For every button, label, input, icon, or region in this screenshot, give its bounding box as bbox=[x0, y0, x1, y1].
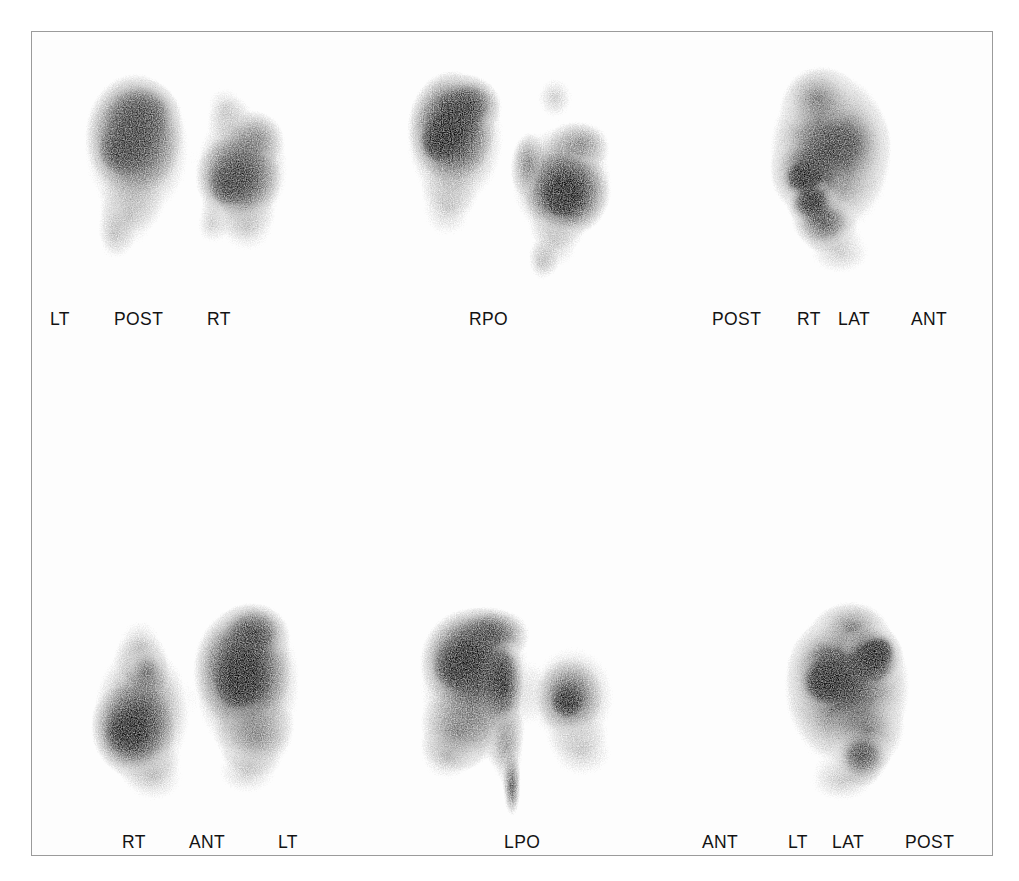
scan-image-right-lateral bbox=[712, 38, 972, 308]
scan-panel-lpo bbox=[387, 572, 667, 842]
label-rt-right-lateral: RT bbox=[797, 306, 821, 332]
label-ant-right-lateral: ANT bbox=[911, 306, 947, 332]
orientation-labels-top-row: LT POST RT RPO POST RT LAT ANT bbox=[32, 306, 992, 332]
scan-image-rpo bbox=[377, 38, 657, 308]
scan-row-top bbox=[32, 38, 992, 338]
image-frame: LT POST RT RPO POST RT LAT ANT bbox=[31, 31, 993, 856]
scan-row-bottom bbox=[32, 572, 992, 856]
label-lt-left-lateral: LT bbox=[788, 829, 808, 855]
label-rt-posterior: RT bbox=[207, 306, 231, 332]
label-rpo: RPO bbox=[469, 306, 508, 332]
scan-panel-posterior bbox=[42, 38, 352, 308]
scan-panel-right-lateral bbox=[712, 38, 972, 308]
label-ant-anterior: ANT bbox=[189, 829, 225, 855]
lung-scintigraphy-figure: LT POST RT RPO POST RT LAT ANT bbox=[0, 0, 1019, 881]
label-lat-left-lateral: LAT bbox=[832, 829, 864, 855]
scan-panel-anterior bbox=[42, 572, 352, 842]
scan-panel-left-lateral bbox=[722, 572, 982, 842]
label-lat-right-lateral: LAT bbox=[838, 306, 870, 332]
scan-image-posterior bbox=[42, 38, 352, 308]
scan-image-left-lateral bbox=[722, 572, 982, 842]
scan-image-anterior bbox=[42, 572, 352, 842]
label-lt-anterior: LT bbox=[278, 829, 298, 855]
label-lpo: LPO bbox=[504, 829, 540, 855]
label-rt-anterior: RT bbox=[122, 829, 146, 855]
label-ant-left-lateral: ANT bbox=[702, 829, 738, 855]
label-post-left-lateral: POST bbox=[905, 829, 954, 855]
scan-panel-rpo bbox=[377, 38, 657, 308]
label-post-right-lateral: POST bbox=[712, 306, 761, 332]
orientation-labels-bottom-row: RT ANT LT LPO ANT LT LAT POST bbox=[32, 829, 992, 855]
label-post-posterior: POST bbox=[114, 306, 163, 332]
label-lt-posterior: LT bbox=[50, 306, 70, 332]
scan-image-lpo bbox=[387, 572, 667, 842]
